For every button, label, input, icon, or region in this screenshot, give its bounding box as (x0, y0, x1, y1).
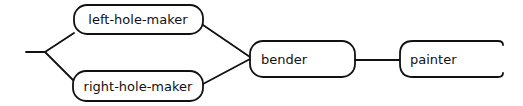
flow-diagram: left-hole-maker right-hole-maker bender … (0, 0, 523, 106)
node-label-left-hole-maker: left-hole-maker (88, 12, 188, 27)
edge-right-hole-maker-to-bender (203, 59, 250, 84)
node-bender[interactable]: bender (250, 41, 355, 77)
entry-edge (26, 33, 74, 80)
node-painter[interactable]: painter (400, 41, 503, 77)
node-label-painter: painter (410, 52, 457, 67)
node-left-hole-maker[interactable]: left-hole-maker (74, 5, 203, 34)
node-label-bender: bender (261, 52, 308, 67)
edge-left-hole-maker-to-bender (203, 25, 250, 57)
node-right-hole-maker[interactable]: right-hole-maker (73, 71, 203, 101)
node-label-right-hole-maker: right-hole-maker (84, 79, 193, 94)
